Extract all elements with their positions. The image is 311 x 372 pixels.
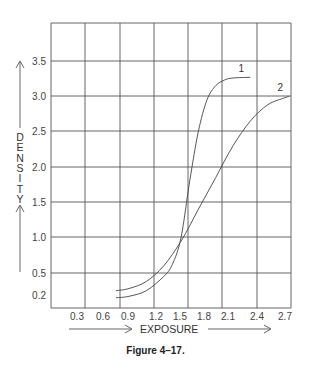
- x-tick-label: 2.7: [278, 311, 292, 322]
- x-tick-label: 0.3: [70, 311, 84, 322]
- y-tick-labels: 0.20.51.01.52.02.53.03.5: [32, 56, 46, 301]
- y-tick-label: 0.2: [32, 290, 46, 301]
- x-tick-labels: 0.30.60.91.21.51.82.12.42.7: [70, 311, 292, 322]
- y-tick-label: 1.5: [32, 197, 46, 208]
- curve-labels: 12: [239, 63, 284, 93]
- chart-grid: [51, 23, 291, 308]
- curve-label: 2: [278, 82, 284, 93]
- x-tick-label: 2.4: [250, 311, 264, 322]
- x-tick-label: 1.2: [149, 311, 163, 322]
- x-tick-label: 0.9: [121, 311, 135, 322]
- chart-curves: [116, 77, 289, 297]
- x-tick-label: 0.6: [96, 311, 110, 322]
- figure-caption: Figure 4–17.: [0, 345, 311, 356]
- x-axis-label: EXPOSURE: [69, 323, 271, 335]
- density-label: DENSITY: [16, 131, 24, 205]
- y-tick-label: 3.0: [32, 91, 46, 102]
- y-tick-label: 2.0: [32, 162, 46, 173]
- density-exposure-chart: 0.20.51.01.52.02.53.03.5 0.30.60.91.21.5…: [0, 0, 311, 372]
- curve-1: [116, 77, 250, 297]
- x-tick-label: 2.1: [221, 311, 235, 322]
- x-tick-label: 1.5: [173, 311, 187, 322]
- exposure-label: EXPOSURE: [140, 323, 198, 335]
- x-tick-label: 1.8: [197, 311, 211, 322]
- density-letter: Y: [16, 193, 23, 205]
- y-tick-label: 3.5: [32, 56, 46, 67]
- y-tick-label: 0.5: [32, 268, 46, 279]
- y-axis-label: DENSITY: [16, 61, 24, 272]
- curve-label: 1: [239, 63, 245, 74]
- y-tick-label: 1.0: [32, 232, 46, 243]
- curve-2: [116, 96, 289, 290]
- y-tick-label: 2.5: [32, 126, 46, 137]
